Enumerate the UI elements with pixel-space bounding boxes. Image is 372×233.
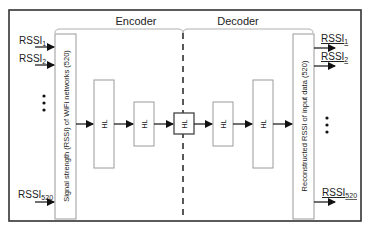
input-rssi-520-label: RSSI520 — [18, 189, 53, 201]
input-rssi-2-label: RSSI2 — [19, 53, 46, 65]
hidden-layer-1-label: HL — [101, 119, 108, 128]
input-ellipsis — [42, 94, 45, 111]
input-layer-label: Signal strength (RSSI) of WiFi networks … — [62, 50, 71, 202]
output-layer-label: Reconstructed RSSI of input data (520) — [300, 60, 309, 191]
encoder-label: Encoder — [116, 15, 157, 27]
output-ellipsis — [325, 116, 328, 133]
hidden-layer-5-label: HL — [260, 119, 267, 128]
bottleneck-layer-label: HL — [181, 119, 188, 128]
hidden-layer-4-label: HL — [220, 119, 227, 128]
output-rssi-1-label: RSSI1 — [321, 33, 348, 45]
output-rssi-520-label: RSSI520 — [322, 187, 357, 199]
hidden-layer-2-label: HL — [141, 119, 148, 128]
encoder-brace — [55, 29, 183, 33]
output-rssi-2-label: RSSI2 — [321, 51, 348, 63]
input-rssi-1-label: RSSI1 — [19, 35, 46, 47]
decoder-brace — [183, 29, 313, 33]
decoder-label: Decoder — [217, 15, 259, 27]
autoencoder-diagram: Encoder Decoder Signal strength (RSSI) o… — [0, 0, 372, 233]
